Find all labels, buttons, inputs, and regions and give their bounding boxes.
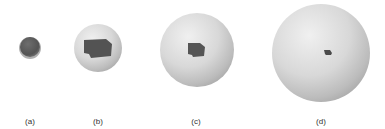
panel-label-b: (b) [93,117,103,126]
sphere-b [74,24,122,72]
sphere-a [19,37,41,59]
panel-label-c: (c) [191,117,200,126]
sphere-c [160,13,234,87]
panel-label-d: (d) [316,117,326,126]
panel-label-a: (a) [25,117,35,126]
sphere-d-body [272,4,370,102]
sphere-d [272,4,370,102]
sphere-a-patch [20,37,40,57]
spheres-figure [0,0,385,129]
